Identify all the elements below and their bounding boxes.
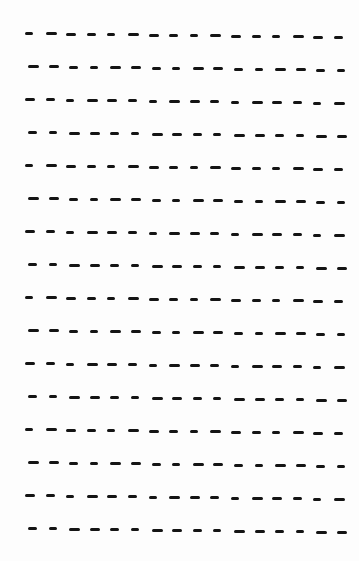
dash-mark (46, 164, 57, 167)
dash-mark (337, 465, 345, 468)
dash-mark (25, 98, 35, 101)
dash-mark (107, 297, 115, 300)
dash-mark (210, 496, 219, 499)
dash-mark (128, 231, 137, 234)
dash-mark (152, 133, 163, 136)
dash-mark (69, 264, 80, 267)
dash-mark (169, 496, 180, 499)
dash-mark (128, 33, 139, 36)
dash-mark (46, 32, 57, 35)
dash-mark (313, 498, 321, 501)
dash-mark (255, 398, 265, 401)
dash-mark (107, 363, 117, 366)
dash-mark (90, 396, 100, 399)
dash-mark (213, 331, 223, 334)
dash-mark (193, 199, 204, 202)
dash-mark (210, 298, 221, 301)
dash-mark (49, 395, 57, 398)
dash-mark (25, 230, 35, 233)
dash-mark (149, 232, 157, 235)
dash-mark (252, 431, 261, 434)
dash-mark (193, 133, 202, 136)
dash-mark (169, 34, 178, 37)
dash-mark (131, 528, 139, 531)
dashed-line-row (0, 329, 359, 337)
dash-mark (25, 494, 35, 497)
dash-mark (46, 362, 55, 365)
dashed-line-row (0, 65, 359, 73)
dash-mark (255, 266, 265, 269)
dash-mark (293, 167, 304, 170)
dash-mark (46, 494, 55, 497)
dash-mark (231, 167, 241, 170)
dash-mark (275, 332, 286, 335)
dash-mark (190, 298, 198, 301)
dash-mark (231, 431, 241, 434)
dashed-line-row (0, 32, 359, 40)
dash-mark (255, 530, 265, 533)
dash-mark (334, 498, 345, 501)
dash-mark (190, 364, 200, 367)
dash-mark (296, 68, 306, 71)
dash-mark (313, 36, 323, 39)
dash-mark (152, 463, 161, 466)
dash-mark (252, 365, 263, 368)
dash-mark (46, 296, 57, 299)
dash-mark (231, 299, 241, 302)
dash-mark (128, 429, 139, 432)
dash-mark (110, 330, 121, 333)
dash-mark (275, 530, 284, 533)
dash-mark (128, 495, 137, 498)
dash-mark (172, 463, 180, 466)
dash-mark (169, 166, 178, 169)
dash-mark (49, 527, 57, 530)
dash-mark (131, 264, 139, 267)
dash-mark (316, 135, 327, 138)
dash-mark (316, 531, 327, 534)
dash-mark (149, 100, 157, 103)
dash-mark (231, 35, 241, 38)
dash-mark (334, 36, 343, 39)
dash-mark (110, 132, 119, 135)
dash-mark (296, 464, 306, 467)
dashed-line-row (0, 395, 359, 403)
dash-mark (193, 67, 204, 70)
dash-mark (69, 528, 80, 531)
dash-mark (90, 198, 98, 201)
dash-mark (152, 199, 161, 202)
dash-mark (28, 395, 37, 398)
dash-mark (296, 398, 304, 401)
dash-mark (66, 231, 74, 234)
dash-mark (172, 133, 182, 136)
dash-mark (90, 66, 98, 69)
dash-mark (152, 529, 163, 532)
dash-mark (293, 35, 304, 38)
dash-mark (172, 199, 180, 202)
dash-mark (152, 397, 163, 400)
dash-mark (90, 462, 98, 465)
dash-mark (110, 66, 121, 69)
dashed-line-row (0, 131, 359, 139)
dash-mark (337, 399, 347, 402)
dash-mark (272, 299, 280, 302)
dashed-line-row (0, 296, 359, 304)
dash-mark (210, 166, 221, 169)
dash-mark (69, 330, 78, 333)
dash-mark (313, 300, 323, 303)
dash-mark (337, 531, 347, 534)
dash-mark (169, 232, 180, 235)
dash-mark (66, 363, 74, 366)
dash-mark (190, 166, 198, 169)
dash-mark (272, 35, 280, 38)
dash-mark (313, 234, 321, 237)
dash-mark (275, 134, 284, 137)
dash-mark (255, 464, 263, 467)
dash-mark (149, 166, 159, 169)
dash-mark (90, 330, 98, 333)
dash-mark (25, 296, 33, 299)
dash-mark (131, 66, 141, 69)
dashed-line-row (0, 98, 359, 106)
dash-mark (272, 365, 282, 368)
dash-mark (66, 297, 76, 300)
dash-mark (334, 102, 345, 105)
